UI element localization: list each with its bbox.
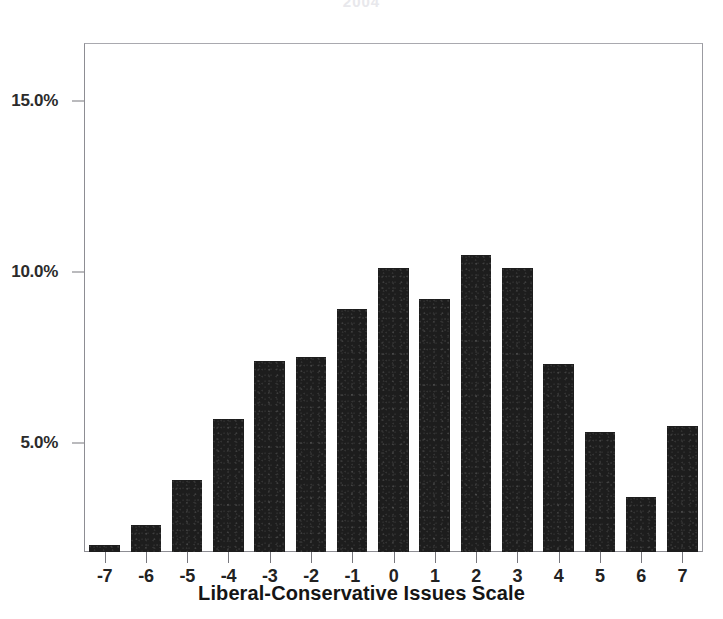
y-tick-label: 15.0%: [11, 91, 58, 111]
bars-group: [84, 43, 703, 552]
bar: [172, 480, 203, 552]
x-tick-mark: [476, 552, 477, 563]
y-tick-mark: [72, 271, 84, 272]
x-tick-mark: [228, 552, 229, 563]
bar: [337, 309, 368, 552]
x-tick-mark: [270, 552, 271, 563]
x-tick-mark: [187, 552, 188, 563]
x-tick-mark: [517, 552, 518, 563]
bar: [254, 361, 285, 552]
bar: [585, 432, 616, 552]
x-tick-mark: [352, 552, 353, 563]
x-tick-mark: [559, 552, 560, 563]
bar: [378, 268, 409, 552]
x-tick-mark: [682, 552, 683, 563]
x-tick-mark: [394, 552, 395, 563]
bar: [213, 419, 244, 552]
bar: [626, 497, 657, 552]
x-axis-title: Liberal-Conservative Issues Scale: [0, 582, 723, 605]
x-tick-mark: [105, 552, 106, 563]
bar: [296, 357, 327, 552]
y-tick-mark: [72, 442, 84, 443]
bar: [131, 525, 162, 552]
bar-chart-figure: 2004 5.0%10.0%15.0% -7-6-5-4-3-2-1012345…: [0, 0, 723, 619]
bar: [543, 364, 574, 552]
bar: [461, 255, 492, 552]
bar: [667, 426, 698, 552]
y-tick-mark: [72, 101, 84, 102]
y-tick-label: 5.0%: [20, 433, 58, 453]
x-tick-mark: [311, 552, 312, 563]
x-tick-mark: [641, 552, 642, 563]
bar: [419, 299, 450, 552]
bar: [89, 545, 120, 552]
x-tick-mark: [146, 552, 147, 563]
x-tick-mark: [600, 552, 601, 563]
bar: [502, 268, 533, 552]
x-tick-mark: [435, 552, 436, 563]
y-tick-label: 10.0%: [11, 262, 58, 282]
chart-title: 2004: [0, 0, 723, 10]
y-axis: 5.0%10.0%15.0%: [0, 0, 84, 619]
